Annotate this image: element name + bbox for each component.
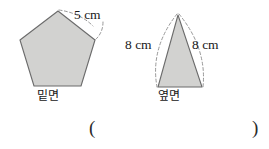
- pentagon-side-length-label: 5 cm: [74, 8, 101, 22]
- triangle-caption: 옆면: [158, 90, 180, 102]
- answer-blank-open-paren: (: [89, 118, 95, 137]
- pentagon-base-shape: [20, 11, 95, 86]
- triangle-right-side-length-label: 8 cm: [192, 38, 219, 52]
- pentagon-edge-leader-hook: [95, 22, 103, 40]
- geometry-figure: 5 cm 8 cm 8 cm 밑면 옆면 ( ): [0, 0, 269, 149]
- pentagon-caption: 밑면: [37, 90, 59, 102]
- answer-blank-close-paren: ): [252, 118, 258, 137]
- triangle-left-side-length-label: 8 cm: [125, 38, 152, 52]
- figure-canvas: [0, 0, 269, 149]
